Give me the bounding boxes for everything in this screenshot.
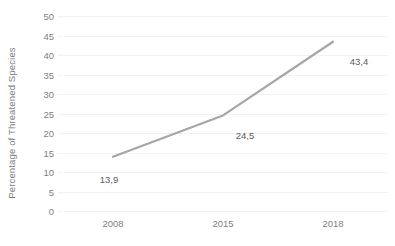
gridline — [58, 211, 388, 212]
data-point-label: 24,5 — [236, 130, 255, 141]
x-axis-tick-labels: 200820152018 — [58, 218, 388, 236]
y-axis-tick-label: 30 — [26, 89, 54, 100]
y-axis-tick-label: 45 — [26, 30, 54, 41]
x-axis-tick-label: 2018 — [322, 218, 343, 229]
y-axis-title: Percentage of Threatened Species — [0, 0, 22, 246]
y-axis-tick-label: 10 — [26, 167, 54, 178]
y-axis-tick-label: 15 — [26, 147, 54, 158]
y-axis-tick-label: 0 — [26, 206, 54, 217]
y-axis-tick-label: 20 — [26, 128, 54, 139]
data-point-label: 13,9 — [100, 173, 119, 184]
series-line-path — [113, 42, 333, 157]
x-axis-tick-label: 2015 — [212, 218, 233, 229]
y-axis-tick-label: 35 — [26, 69, 54, 80]
y-axis-tick-label: 50 — [26, 11, 54, 22]
y-axis-tick-label: 25 — [26, 108, 54, 119]
x-axis-tick-label: 2008 — [102, 218, 123, 229]
y-axis-tick-label: 40 — [26, 50, 54, 61]
plot-area: 13,924,543,4 — [58, 16, 388, 211]
line-chart: Percentage of Threatened Species 5045403… — [0, 0, 395, 246]
y-axis-tick-label: 5 — [26, 186, 54, 197]
data-point-label: 43,4 — [350, 55, 369, 66]
